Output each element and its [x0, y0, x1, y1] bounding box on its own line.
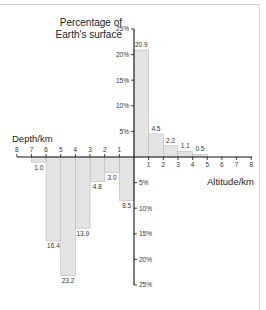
y-tick-label-down: 15% [139, 230, 152, 237]
depth-bar-value: 4.8 [93, 183, 102, 190]
altitude-bar [178, 151, 193, 157]
altitude-bar-value: 1.1 [181, 142, 190, 149]
x-tick-label-altitude: 1 [147, 161, 151, 168]
y-axis-title-line1: Percentage of [60, 17, 122, 28]
x-axis-label-depth: Depth/km [12, 133, 53, 144]
x-tick-label-depth: 6 [44, 146, 48, 153]
altitude-bar [134, 50, 149, 157]
y-tick-label-down: 25% [139, 281, 152, 288]
x-tick-label-depth: 2 [103, 146, 107, 153]
y-tick-label-up: 25% [116, 25, 129, 32]
x-tick-label-depth: 8 [15, 146, 19, 153]
depth-bar [75, 157, 90, 228]
y-tick-label-up: 15% [116, 77, 129, 84]
depth-bar [90, 157, 105, 182]
y-tick-label-up: 5% [120, 128, 130, 135]
y-tick-label-up: 20% [116, 51, 129, 58]
y-tick-label-down: 10% [139, 205, 152, 212]
x-tick-label-altitude: 8 [249, 161, 253, 168]
x-tick-label-altitude: 7 [235, 161, 239, 168]
depth-bar [119, 157, 134, 201]
depth-bar-value: 13.9 [76, 230, 89, 237]
chart-labels: Percentage of Earth's surface Depth/km A… [12, 17, 254, 288]
altitude-bar-value: 4.5 [151, 125, 160, 132]
x-tick-label-altitude: 6 [220, 161, 224, 168]
depth-bar-value: 16.4 [47, 242, 60, 249]
altitude-bar [149, 134, 164, 157]
x-axis-label-altitude: Altitude/km [207, 176, 254, 187]
depth-bar-value: 8.5 [122, 202, 131, 209]
x-tick-label-depth: 7 [30, 146, 34, 153]
depth-bars [31, 157, 134, 276]
depth-bar-value: 3.0 [108, 174, 117, 181]
depth-bar [105, 157, 120, 172]
x-tick-label-depth: 1 [118, 146, 122, 153]
y-axis-title-line2: Earth's surface [56, 29, 123, 40]
depth-bar-value: 1.0 [34, 164, 43, 171]
depth-bar-value: 23.2 [62, 277, 75, 284]
x-tick-label-altitude: 3 [176, 161, 180, 168]
y-tick-label-up: 10% [116, 102, 129, 109]
y-tick-label-down: 20% [139, 256, 152, 263]
depth-bar [46, 157, 61, 241]
depth-bar [61, 157, 76, 276]
altitude-bar-value: 0.5 [195, 145, 204, 152]
x-tick-label-altitude: 4 [191, 161, 195, 168]
hypsometric-bar-chart: Percentage of Earth's surface Depth/km A… [0, 0, 266, 310]
depth-bar [31, 157, 46, 162]
x-tick-label-altitude: 5 [205, 161, 209, 168]
x-tick-label-depth: 4 [74, 146, 78, 153]
altitude-bar-value: 20.9 [135, 41, 148, 48]
altitude-bar-value: 2.2 [166, 137, 175, 144]
x-tick-label-altitude: 2 [161, 161, 165, 168]
x-tick-label-depth: 5 [59, 146, 63, 153]
y-tick-label-down: 5% [139, 179, 149, 186]
x-tick-label-depth: 3 [88, 146, 92, 153]
altitude-bar [163, 146, 178, 157]
